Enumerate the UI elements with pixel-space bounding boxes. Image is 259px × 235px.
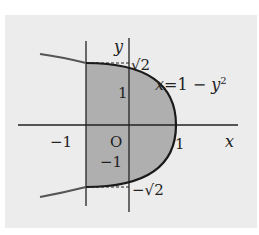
- tick-y-pos1: 1: [118, 84, 128, 102]
- tick-x-neg1: −1: [50, 133, 72, 151]
- curve-equation-label: x=1 − y2: [155, 75, 227, 94]
- parabola-outer-bottom: [40, 187, 86, 197]
- y-axis-label: y: [113, 37, 124, 56]
- tick-y-sqrt2: √2: [131, 56, 150, 74]
- tick-y-neg-sqrt2: −√2: [132, 181, 164, 199]
- tick-x-pos1: 1: [175, 135, 185, 153]
- parabola-diagram: y x O −1 1 1 −1 √2 −√2 x=1 − y2: [0, 0, 259, 235]
- tick-y-neg1: −1: [100, 153, 122, 171]
- origin-label: O: [110, 133, 122, 151]
- parabola-outer-top: [40, 54, 86, 63]
- x-axis-label: x: [225, 132, 234, 151]
